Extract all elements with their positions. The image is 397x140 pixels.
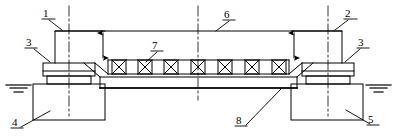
callout-label-5: 5 [368, 114, 374, 125]
water-level-symbol-right [366, 85, 391, 92]
right-haunch-taper [289, 63, 313, 77]
callout-label-4: 4 [12, 117, 18, 128]
technical-drawing-svg [0, 0, 397, 140]
callout-label-6: 6 [224, 9, 230, 20]
callout-label-3-right: 3 [358, 37, 364, 48]
callout-label-3-left: 3 [26, 37, 32, 48]
callout-label-2: 2 [345, 8, 351, 19]
x-brace-web-member [112, 60, 286, 74]
callout-label-7: 7 [152, 40, 158, 51]
left-upper-deck-slab [55, 31, 105, 63]
water-level-symbol-left [6, 85, 31, 92]
drawing-canvas: 1 2 3 3 4 5 6 7 8 [0, 0, 397, 140]
right-pier-foundation [291, 84, 363, 120]
callout-label-1: 1 [43, 8, 49, 19]
callout-label-8: 8 [236, 115, 242, 126]
left-haunch-taper [84, 63, 108, 77]
right-upper-deck-slab [292, 31, 342, 63]
